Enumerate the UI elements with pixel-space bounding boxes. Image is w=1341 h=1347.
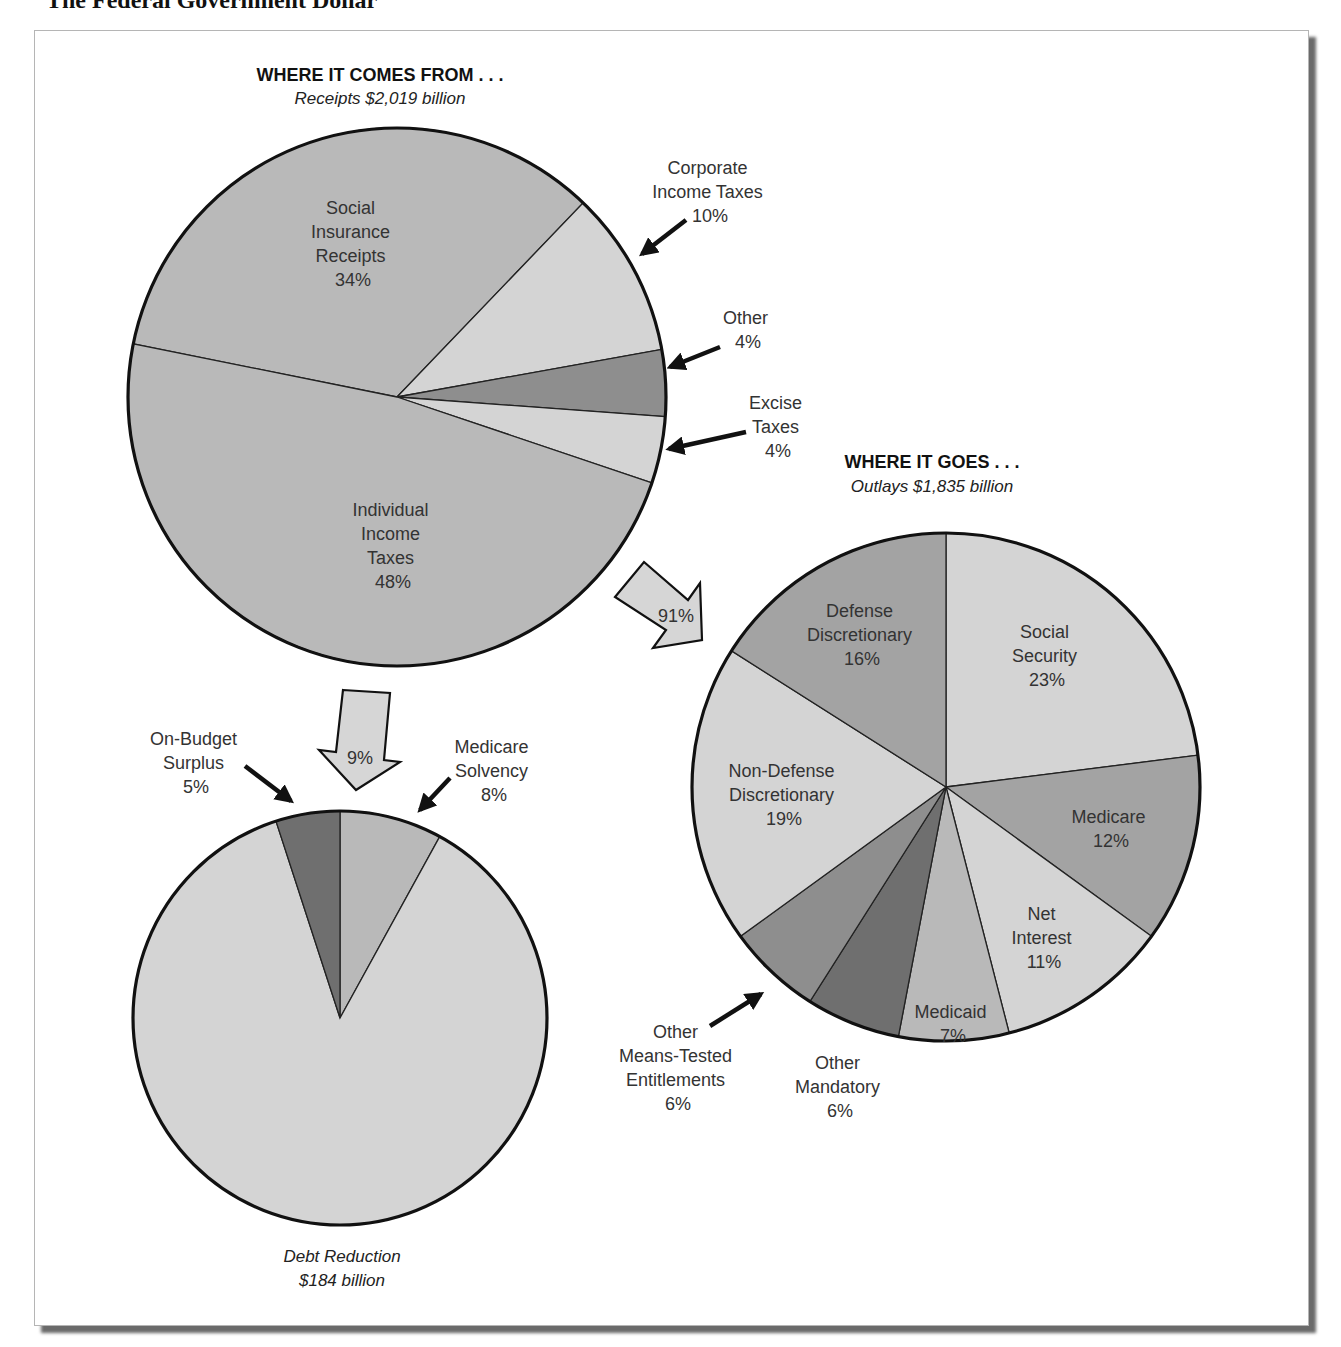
debt-reduction-pie [133,811,547,1225]
label-excise: Excise Taxes 4% [749,393,807,461]
flow-arrow-to-debt: 9% [319,690,400,790]
outlays-subheader: Outlays $1,835 billion [851,477,1014,496]
federal-dollar-chart: WHERE IT COMES FROM . . . Receipts $2,01… [0,0,1341,1347]
arrow-other-receipts [670,347,720,367]
label-other-mandatory: Other Mandatory 6% [795,1053,885,1121]
arrow-corporate [642,220,686,254]
arrow-other-means-tested [710,994,761,1026]
label-other-receipts: Other 4% [723,308,773,352]
debt-caption-title: Debt Reduction [283,1247,400,1266]
label-other-means-tested: Other Means-Tested Entitlements 6% [619,1022,737,1114]
outlays-header: WHERE IT GOES . . . [844,452,1019,472]
debt-caption-amount: $184 billion [298,1271,385,1290]
arrow-on-budget-surplus [245,766,291,801]
arrow-medicare-solvency [420,778,450,810]
flow-label-9: 9% [347,748,373,768]
flow-label-91: 91% [658,606,694,626]
receipts-header: WHERE IT COMES FROM . . . [257,65,504,85]
label-corporate: Corporate Income Taxes 10% [652,158,768,226]
receipts-subheader: Receipts $2,019 billion [294,89,465,108]
flow-arrow-to-outlays: 91% [615,562,702,648]
label-medicare-solvency: Medicare Solvency 8% [454,737,533,805]
label-on-budget-surplus: On-Budget Surplus 5% [150,729,242,797]
arrow-excise [669,432,746,449]
